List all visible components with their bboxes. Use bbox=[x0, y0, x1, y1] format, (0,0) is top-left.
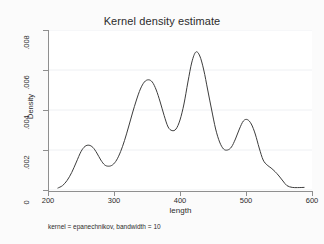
density-plot-svg bbox=[48, 30, 312, 190]
y-tick-label: 0 bbox=[22, 190, 31, 216]
y-tick-mark bbox=[43, 190, 48, 191]
x-tick-label: 200 bbox=[33, 196, 63, 205]
y-axis-title: Density bbox=[26, 94, 35, 119]
x-tick-label: 400 bbox=[165, 196, 195, 205]
x-tick-label: 600 bbox=[297, 196, 324, 205]
y-tick-label: .008 bbox=[22, 30, 31, 56]
graph-region: Kernel density estimate 0.002.004.006.00… bbox=[6, 6, 318, 238]
graph-page: Kernel density estimate 0.002.004.006.00… bbox=[0, 0, 324, 244]
chart-title: Kernel density estimate bbox=[6, 15, 318, 27]
x-tick-label: 300 bbox=[99, 196, 129, 205]
gridlines bbox=[48, 30, 312, 190]
y-tick-mark bbox=[43, 110, 48, 111]
plot-panel bbox=[48, 30, 312, 190]
y-tick-mark bbox=[43, 30, 48, 31]
y-tick-mark bbox=[43, 70, 48, 71]
x-tick-label: 500 bbox=[231, 196, 261, 205]
density-curve bbox=[58, 52, 304, 188]
y-axis-line bbox=[48, 30, 49, 192]
x-axis-title: length bbox=[48, 206, 313, 215]
kernel-note: kernel = epanechnikov, bandwidth = 10 bbox=[48, 223, 161, 230]
y-tick-label: .002 bbox=[22, 150, 31, 176]
y-tick-mark bbox=[43, 150, 48, 151]
y-tick-label: .006 bbox=[22, 70, 31, 96]
